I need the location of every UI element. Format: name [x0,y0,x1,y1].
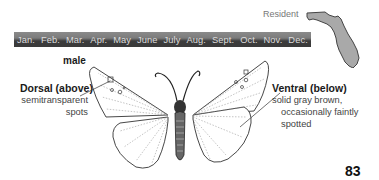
month-july: July [164,35,181,45]
flight-months-band: Jan. Feb. Mar. Apr. May June July Aug. S… [14,32,311,47]
month-jan: Jan. [17,35,35,45]
month-oct: Oct. [240,35,257,45]
ventral-description-rest: occasionally faintly spotted [281,107,359,130]
month-may: May [113,35,131,45]
month-nov: Nov. [264,35,283,45]
resident-label: Resident [263,9,299,19]
page-number: 83 [345,163,361,179]
month-mar: Mar. [66,35,84,45]
ventral-description-line2: occasionally faintly [281,107,359,119]
dorsal-description: semitransparent spots [20,95,88,118]
month-feb: Feb. [41,35,60,45]
month-june: June [137,35,158,45]
ventral-description-line3: spotted [281,119,359,131]
butterfly-illustration-icon [80,55,280,180]
ventral-title: Ventral (below) [272,82,347,94]
ventral-description-line1: solid gray brown, [272,95,342,105]
month-aug: Aug. [186,35,206,45]
month-sept: Sept. [212,35,234,45]
month-apr: Apr. [90,35,107,45]
florida-map-icon [305,8,365,68]
month-dec: Dec. [288,35,308,45]
